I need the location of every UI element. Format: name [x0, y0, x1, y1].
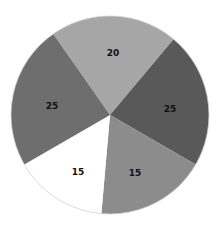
slice-label: 15 [72, 167, 85, 177]
slice-label: 25 [46, 101, 59, 111]
slice-label: 15 [129, 168, 142, 178]
pie-chart: 2025151525 [0, 0, 220, 228]
slice-label: 20 [107, 48, 120, 58]
slice-label: 25 [164, 104, 177, 114]
